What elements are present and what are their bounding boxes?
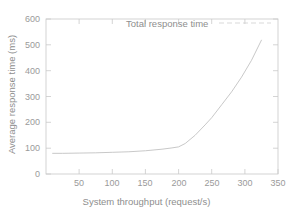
x-tick-label-100: 100 (97, 178, 127, 188)
x-tick-label-300: 300 (230, 178, 260, 188)
x-axis-title: System throughput (request/s) (0, 196, 293, 207)
x-tick-label-150: 150 (130, 178, 160, 188)
x-tick-label-200: 200 (164, 178, 194, 188)
x-axis-ticks (79, 19, 278, 174)
y-axis-title: Average response time (ms) (6, 9, 17, 181)
x-tick-label-350: 350 (263, 178, 293, 188)
chart-figure: 600 500 400 300 200 100 0 50 100 150 200… (0, 0, 293, 221)
legend-entry-total-response-time: Total response time (126, 18, 208, 29)
y-axis-ticks (46, 19, 278, 174)
x-tick-label-250: 250 (197, 178, 227, 188)
y-axis-title-wrapper: Average response time (ms) (2, 0, 18, 190)
x-tick-label-50: 50 (64, 178, 94, 188)
plot-frame (46, 19, 278, 174)
series-line-total-response-time (53, 40, 262, 153)
